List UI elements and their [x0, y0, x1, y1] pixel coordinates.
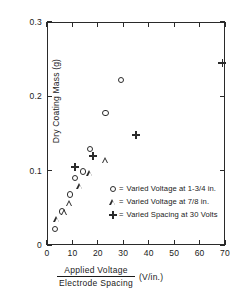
x-axis-tick-label: 70 — [213, 248, 237, 258]
legend-item: =Varied Voltage at 7/8 in. — [108, 195, 218, 208]
legend-equals-sign: = — [119, 195, 124, 208]
x-axis-label-fraction: Applied Voltage Electrode Spacing — [57, 265, 135, 288]
x-axis-label: Applied Voltage Electrode Spacing (V/in.… — [57, 265, 237, 288]
x-axis-label-denominator: Electrode Spacing — [57, 277, 135, 288]
legend-marker-plus-icon — [108, 209, 119, 220]
scatter-chart-figure: 01020304050607000.10.20.3 Dry Coating Ma… — [0, 0, 239, 301]
y-axis-tick-label: 0.3 — [16, 17, 42, 27]
legend-item: =Varied Spacing at 30 Volts — [108, 208, 218, 221]
legend-marker-triangle-icon — [108, 196, 119, 207]
x-axis-tick-label: 40 — [137, 248, 161, 258]
legend-equals-sign: = — [119, 182, 124, 195]
x-axis-label-units: (V/in.) — [139, 272, 163, 282]
legend-marker-circle-icon — [108, 183, 119, 194]
legend-label: Varied Voltage at 7/8 in. — [127, 195, 210, 208]
x-axis-tick-label: 50 — [162, 248, 186, 258]
x-axis-tick-label: 30 — [111, 248, 135, 258]
legend-label: Varied Spacing at 30 Volts — [127, 208, 218, 221]
x-axis-label-numerator: Applied Voltage — [57, 265, 135, 277]
legend-item: =Varied Voltage at 1-3/4 in. — [108, 182, 218, 195]
y-axis-tick-label: 0.2 — [16, 91, 42, 101]
x-axis-tick-label: 20 — [86, 248, 110, 258]
y-axis-tick-label: 0 — [16, 240, 42, 250]
x-axis-tick-label: 10 — [60, 248, 84, 258]
legend-label: Varied Voltage at 1-3/4 in. — [127, 182, 217, 195]
legend: =Varied Voltage at 1-3/4 in.=Varied Volt… — [108, 182, 218, 221]
y-axis-label: Dry Coating Mass (g) — [51, 41, 61, 161]
legend-equals-sign: = — [119, 208, 124, 221]
x-axis-tick-label: 60 — [188, 248, 212, 258]
y-axis-tick-label: 0.1 — [16, 166, 42, 176]
